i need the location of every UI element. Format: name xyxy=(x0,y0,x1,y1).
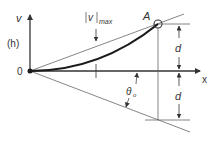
d-lower-label: d xyxy=(175,90,182,102)
theta-sub-label: o xyxy=(133,92,137,98)
lower-line xyxy=(30,71,190,132)
theta-label: θ xyxy=(126,86,132,97)
origin-label: 0 xyxy=(17,66,23,77)
x-axis-label: x xyxy=(202,74,207,85)
theta-arrow-up xyxy=(136,73,137,84)
vmax-v-label: v xyxy=(88,12,94,23)
v-axis-label: v xyxy=(16,12,23,24)
vmax-sub-label: max xyxy=(99,18,113,25)
trajectory-diagram: v (h) 0 x A v max d d θ o xyxy=(0,0,218,143)
h-axis-label: (h) xyxy=(7,38,19,49)
origin-dot xyxy=(28,69,33,74)
point-a-label: A xyxy=(142,10,150,22)
theta-arrow-down xyxy=(126,98,129,107)
d-upper-label: d xyxy=(175,42,182,54)
